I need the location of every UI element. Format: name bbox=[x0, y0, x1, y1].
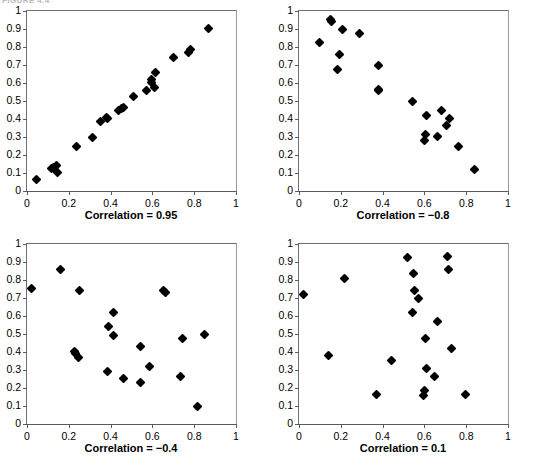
y-axis-tick-mark bbox=[295, 11, 299, 12]
y-axis-tick-label: 0.3 bbox=[6, 363, 21, 376]
y-axis-tick-label: 0 bbox=[287, 184, 293, 197]
y-axis-tick-label: 0.8 bbox=[6, 40, 21, 53]
panel-caption: Correlation = −0.4 bbox=[0, 441, 262, 455]
x-axis-tick-mark bbox=[236, 424, 237, 428]
y-axis-tick-label: 0.1 bbox=[6, 399, 21, 412]
panel-caption: Correlation = 0.95 bbox=[0, 208, 262, 222]
y-axis-tick-label: 0.9 bbox=[6, 22, 21, 35]
data-point bbox=[169, 52, 179, 62]
y-axis-tick-mark bbox=[23, 388, 27, 389]
y-axis-tick-label: 0.5 bbox=[6, 94, 21, 107]
data-point bbox=[386, 355, 396, 365]
y-axis-tick-mark bbox=[23, 352, 27, 353]
y-axis-tick-label: 0.1 bbox=[6, 166, 21, 179]
y-axis-tick-label: 0.8 bbox=[6, 273, 21, 286]
y-axis-tick-mark bbox=[23, 155, 27, 156]
data-point bbox=[175, 372, 185, 382]
data-point bbox=[335, 50, 345, 60]
data-point bbox=[414, 294, 424, 304]
y-axis-tick-label: 0.6 bbox=[278, 309, 293, 322]
data-point bbox=[88, 132, 98, 142]
data-point bbox=[136, 378, 146, 388]
data-point bbox=[469, 164, 479, 174]
y-axis-tick-mark bbox=[295, 316, 299, 317]
x-axis-tick-mark bbox=[194, 191, 195, 195]
x-axis-tick-mark bbox=[508, 424, 509, 428]
y-axis-tick-label: 0.6 bbox=[278, 76, 293, 89]
y-axis-tick-mark bbox=[23, 11, 27, 12]
y-axis-tick-mark bbox=[23, 119, 27, 120]
data-point bbox=[55, 265, 65, 275]
y-axis-tick-mark bbox=[23, 298, 27, 299]
x-axis-tick-mark bbox=[383, 424, 384, 428]
data-point bbox=[324, 351, 334, 361]
y-axis-tick-label: 0.7 bbox=[278, 291, 293, 304]
y-axis-tick-mark bbox=[295, 155, 299, 156]
y-axis-tick-mark bbox=[295, 280, 299, 281]
data-point bbox=[373, 61, 383, 71]
y-axis-tick-mark bbox=[295, 173, 299, 174]
x-axis-tick-mark bbox=[341, 191, 342, 195]
data-point bbox=[75, 285, 85, 295]
data-point bbox=[338, 24, 348, 34]
y-axis-tick-mark bbox=[295, 244, 299, 245]
y-axis-tick-label: 0.8 bbox=[278, 40, 293, 53]
x-axis-tick-mark bbox=[299, 424, 300, 428]
data-point bbox=[144, 362, 154, 372]
y-axis-tick-mark bbox=[23, 47, 27, 48]
y-axis-tick-label: 0.7 bbox=[278, 58, 293, 71]
plot-area: 00.10.20.30.40.50.60.70.80.9100.20.40.60… bbox=[26, 243, 237, 425]
data-point bbox=[26, 283, 36, 293]
data-point bbox=[446, 344, 456, 354]
y-axis-tick-mark bbox=[295, 47, 299, 48]
data-point bbox=[128, 92, 138, 102]
y-axis-tick-label: 0 bbox=[287, 417, 293, 430]
y-axis-tick-mark bbox=[295, 334, 299, 335]
data-point bbox=[429, 371, 439, 381]
y-axis-tick-label: 0.2 bbox=[6, 148, 21, 161]
y-axis-tick-label: 0.3 bbox=[278, 363, 293, 376]
data-point bbox=[407, 96, 417, 106]
y-axis-tick-mark bbox=[295, 370, 299, 371]
y-axis-tick-mark bbox=[295, 388, 299, 389]
data-point bbox=[461, 389, 471, 399]
data-point bbox=[422, 110, 432, 120]
y-axis-tick-mark bbox=[295, 298, 299, 299]
y-axis-tick-mark bbox=[23, 262, 27, 263]
data-point bbox=[108, 308, 118, 318]
data-point bbox=[444, 265, 454, 275]
data-point bbox=[200, 329, 210, 339]
y-axis-tick-mark bbox=[295, 101, 299, 102]
y-axis-tick-label: 0.7 bbox=[6, 58, 21, 71]
x-axis-tick-mark bbox=[27, 191, 28, 195]
data-point bbox=[442, 252, 452, 262]
data-point bbox=[119, 373, 129, 383]
y-axis-tick-label: 0.9 bbox=[6, 255, 21, 268]
y-axis-tick-label: 0.5 bbox=[278, 94, 293, 107]
data-point bbox=[371, 390, 381, 400]
y-axis-tick-label: 0.4 bbox=[6, 112, 21, 125]
data-point bbox=[408, 308, 418, 318]
y-axis-tick-label: 0 bbox=[15, 184, 21, 197]
figure-root: FIGURE 4.4 00.10.20.30.40.50.60.70.80.91… bbox=[0, 0, 543, 465]
y-axis-tick-mark bbox=[295, 352, 299, 353]
y-axis-tick-label: 0.2 bbox=[278, 148, 293, 161]
data-point bbox=[178, 334, 188, 344]
y-axis-tick-mark bbox=[23, 244, 27, 245]
data-point bbox=[354, 29, 364, 39]
y-axis-tick-mark bbox=[295, 137, 299, 138]
x-axis-tick-mark bbox=[194, 424, 195, 428]
y-axis-tick-mark bbox=[23, 370, 27, 371]
scatter-panel-bottom-left: 00.10.20.30.40.50.60.70.80.9100.20.40.60… bbox=[0, 233, 271, 465]
x-axis-tick-mark bbox=[383, 191, 384, 195]
plot-area: 00.10.20.30.40.50.60.70.80.9100.20.40.60… bbox=[26, 10, 237, 192]
y-axis-tick-label: 0.5 bbox=[278, 327, 293, 340]
y-axis-tick-label: 0.6 bbox=[6, 76, 21, 89]
data-point bbox=[71, 142, 81, 152]
data-point bbox=[436, 106, 446, 116]
y-axis-tick-label: 1 bbox=[15, 237, 21, 250]
x-axis-tick-mark bbox=[69, 191, 70, 195]
data-point bbox=[74, 353, 84, 363]
x-axis-tick-mark bbox=[152, 424, 153, 428]
y-axis-tick-label: 0.7 bbox=[6, 291, 21, 304]
